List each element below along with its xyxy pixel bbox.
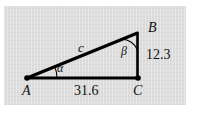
vertex-c-dot xyxy=(135,75,141,81)
vertex-label-b: B xyxy=(148,21,157,35)
vertex-a-dot xyxy=(24,75,30,81)
vertex-label-c: C xyxy=(133,84,142,98)
side-length-label-bc: 12.3 xyxy=(146,48,171,62)
angle-label-alpha: α xyxy=(57,62,63,74)
figure-page: A B C c 12.3 31.6 α β xyxy=(0,0,197,118)
vertex-label-a: A xyxy=(22,84,31,98)
angle-label-beta: β xyxy=(121,45,127,57)
side-label-hypotenuse-c: c xyxy=(78,41,84,54)
side-length-label-ac: 31.6 xyxy=(74,84,99,98)
